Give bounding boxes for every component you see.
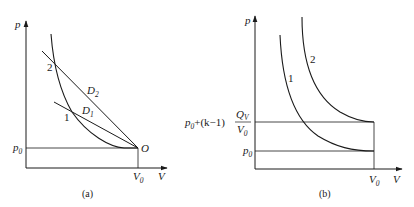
b-p-axis-label: p [244,14,251,26]
a-point-1-label: 1 [64,111,70,123]
a-line-d2 [42,51,138,148]
a-line-d1 [54,102,138,148]
a-v0-label: V0 [133,170,144,185]
a-origin-label: O [141,142,149,154]
b-curve-1-label: 1 [288,72,294,84]
diagram-b: p V p0+(k−1) QV V0 p0 V0 1 2 (b) [184,14,402,200]
diagram-a: p V p0 V0 O 2 1 D2 D1 (a) [12,18,167,200]
a-p-axis-label: p [14,18,21,30]
b-v-axis-label: V [393,173,401,185]
a-d1-label: D1 [81,104,94,119]
b-fraction-numerator: QV [236,108,250,122]
b-caption: (b) [319,188,331,200]
b-p0-label: p0 [242,144,253,159]
a-point-2-label: 2 [47,61,53,73]
figure-canvas: p V p0 V0 O 2 1 D2 D1 (a) p V p0+(k−1) Q… [0,0,414,207]
svg-text:p0+(k−1): p0+(k−1) [184,116,225,131]
b-fraction-denominator: V0 [237,123,248,138]
a-p0-label: p0 [12,141,23,156]
b-upper-level-label: p0+(k−1) QV V0 [184,108,251,138]
b-v0-label: V0 [369,173,380,188]
b-curve-1 [280,35,374,151]
b-curve-2-label: 2 [310,53,316,65]
a-caption: (a) [82,188,93,200]
a-v-axis-label: V [158,170,166,182]
b-curve-2 [302,17,374,122]
